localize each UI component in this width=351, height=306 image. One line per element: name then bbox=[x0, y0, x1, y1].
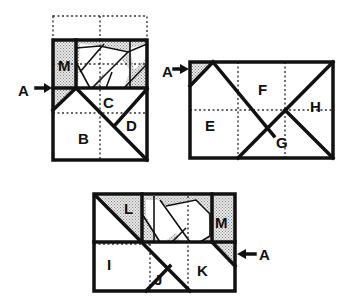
label-m: M bbox=[58, 57, 71, 74]
label-g: G bbox=[276, 134, 288, 151]
label-i: I bbox=[107, 256, 111, 273]
arrow-a-icon bbox=[44, 83, 52, 93]
label-f: F bbox=[258, 81, 267, 98]
arrow-a-icon bbox=[237, 249, 246, 259]
unfolded-flap-outline bbox=[53, 16, 147, 40]
folding-diagram: M A C D B A F E H G bbox=[0, 0, 351, 306]
label-c: C bbox=[103, 94, 114, 111]
label-d: D bbox=[126, 117, 137, 134]
figure-1: M A C D B bbox=[18, 16, 147, 160]
figure-2: A F E H G bbox=[162, 62, 333, 158]
label-k: K bbox=[197, 262, 208, 279]
label-m: M bbox=[215, 214, 228, 231]
label-a: A bbox=[259, 246, 270, 263]
label-h: H bbox=[310, 98, 321, 115]
label-a: A bbox=[162, 63, 173, 80]
arrow-a-icon bbox=[180, 64, 189, 74]
label-j: J bbox=[154, 271, 162, 288]
label-b: B bbox=[78, 130, 89, 147]
figure-3: A L M I J K bbox=[94, 194, 270, 291]
label-e: E bbox=[205, 117, 215, 134]
label-a: A bbox=[18, 82, 29, 99]
label-l: L bbox=[124, 200, 133, 217]
